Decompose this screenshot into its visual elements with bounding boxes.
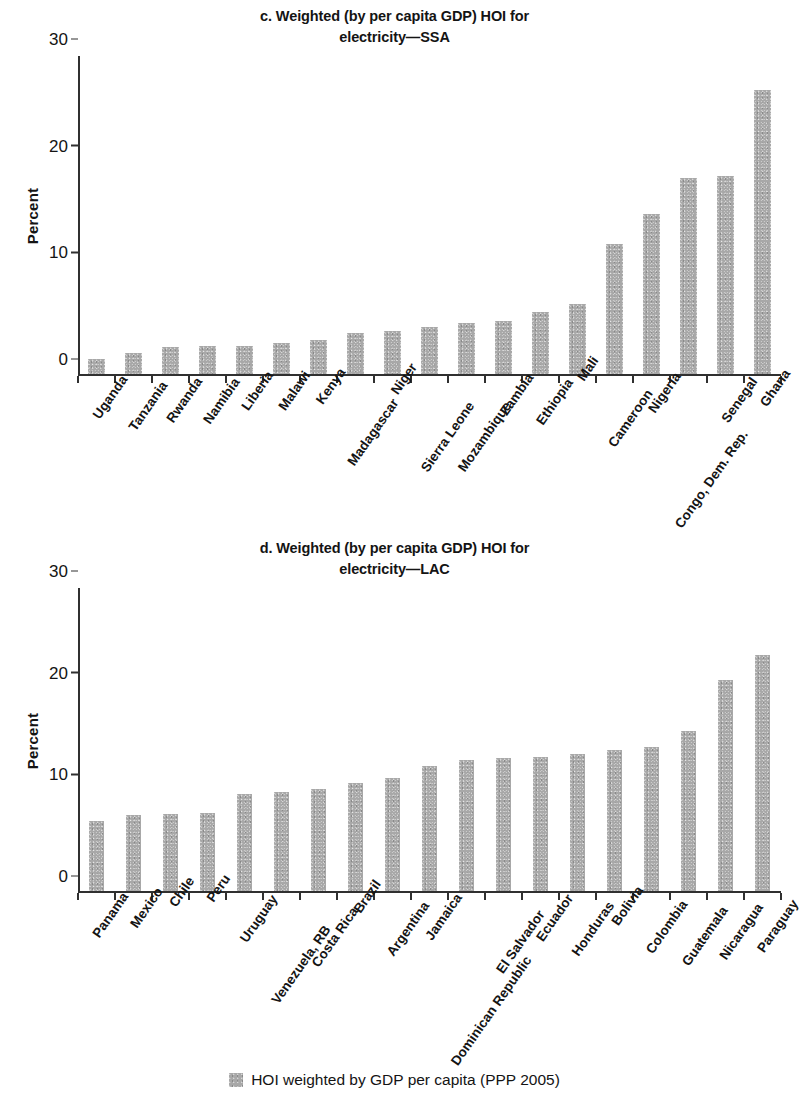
panel-c-title: c. Weighted (by per capita GDP) HOI for … xyxy=(0,0,789,48)
x-label-slot: Mali xyxy=(559,328,596,498)
x-label-slot: Chile xyxy=(152,843,189,1013)
x-label-slot: Costa Rica xyxy=(300,843,337,1013)
x-label-slot: Niger xyxy=(374,328,411,498)
y-tick-label: 20 xyxy=(49,664,68,681)
x-label-slot: Bolivia xyxy=(596,843,633,1013)
x-label-slot: Paraguay xyxy=(744,843,781,1013)
x-label-slot: Ethiopia xyxy=(522,328,559,498)
x-label-slot: Venezuela, RB xyxy=(263,843,300,1013)
panel-c-title-line1: c. Weighted (by per capita GDP) HOI for xyxy=(260,8,529,24)
y-tick: 0 xyxy=(59,351,78,368)
y-tick: 0 xyxy=(59,868,78,885)
x-axis-category-label: Paraguay xyxy=(754,897,801,955)
panel-c-ssa: c. Weighted (by per capita GDP) HOI for … xyxy=(0,0,789,510)
x-label-slot: Uruguay xyxy=(226,843,263,1013)
y-tick: 30 xyxy=(49,31,78,48)
x-label-slot: Rwanda xyxy=(152,328,189,498)
panel-c-x-labels: UgandaTanzaniaRwandaNamibiaLiberiaMalawi… xyxy=(78,328,781,498)
legend-label: HOI weighted by GDP per capita (PPP 2005… xyxy=(251,1071,560,1089)
y-tick-mark xyxy=(71,358,78,360)
x-label-slot: Sierra Leone xyxy=(411,328,448,498)
x-label-slot: Mexico xyxy=(115,843,152,1013)
x-label-slot: Ecuador xyxy=(522,843,559,1013)
y-tick-label: 10 xyxy=(49,766,68,783)
panel-d-title: d. Weighted (by per capita GDP) HOI for … xyxy=(0,530,789,580)
x-label-slot: Dominican Republic xyxy=(448,843,485,1013)
x-label-slot: Ghana xyxy=(744,328,781,498)
y-tick-mark xyxy=(71,38,78,40)
panel-d-x-labels: PanamaMexicoChilePeruUruguayVenezuela, R… xyxy=(78,843,781,1013)
legend-swatch-icon xyxy=(229,1073,243,1087)
y-tick-mark xyxy=(71,672,78,674)
y-tick-label: 30 xyxy=(49,563,68,580)
y-tick-mark xyxy=(71,774,78,776)
x-label-slot: Nigeria xyxy=(633,328,670,498)
x-label-slot: Peru xyxy=(189,843,226,1013)
x-label-slot: Madagascar xyxy=(337,328,374,498)
y-tick-label: 0 xyxy=(59,351,68,368)
x-label-slot: El Salvador xyxy=(485,843,522,1013)
y-tick-label: 10 xyxy=(49,244,68,261)
y-tick-mark xyxy=(71,875,78,877)
y-tick: 10 xyxy=(49,766,78,783)
panel-d-title-line1: d. Weighted (by per capita GDP) HOI for xyxy=(260,540,530,556)
x-label-slot: Cameroon xyxy=(596,328,633,498)
y-tick-mark xyxy=(71,570,78,572)
y-tick-mark xyxy=(71,252,78,254)
y-tick: 10 xyxy=(49,244,78,261)
panel-d-title-line2: electricity—LAC xyxy=(339,561,450,577)
y-tick-label: 20 xyxy=(49,137,68,154)
x-label-slot: Jamaica xyxy=(411,843,448,1013)
y-tick: 20 xyxy=(49,664,78,681)
x-label-slot: Namibia xyxy=(189,328,226,498)
x-label-slot: Uganda xyxy=(78,328,115,498)
x-label-slot: Congo, Dem. Rep. xyxy=(670,328,707,498)
x-label-slot: Panama xyxy=(78,843,115,1013)
y-tick: 30 xyxy=(49,563,78,580)
x-axis-category-label: Ghana xyxy=(756,366,792,409)
panel-d-y-ticks: 0102030 xyxy=(16,588,78,893)
x-label-slot: Colombia xyxy=(633,843,670,1013)
x-label-slot: Mozambique xyxy=(448,328,485,498)
x-label-slot: Honduras xyxy=(559,843,596,1013)
x-label-slot: Nicaragua xyxy=(707,843,744,1013)
chart-legend: HOI weighted by GDP per capita (PPP 2005… xyxy=(0,1071,789,1089)
x-label-slot: Kenya xyxy=(300,328,337,498)
x-label-slot: Zambia xyxy=(485,328,522,498)
x-label-slot: Argentina xyxy=(374,843,411,1013)
y-tick: 20 xyxy=(49,137,78,154)
panel-c-y-ticks: 0102030 xyxy=(16,56,78,376)
panel-c-title-line2: electricity—SSA xyxy=(339,29,450,45)
y-tick-mark xyxy=(71,145,78,147)
x-label-slot: Liberia xyxy=(226,328,263,498)
x-label-slot: Senegal xyxy=(707,328,744,498)
x-label-slot: Tanzania xyxy=(115,328,152,498)
x-label-slot: Guatemala xyxy=(670,843,707,1013)
x-label-slot: Brazil xyxy=(337,843,374,1013)
y-tick-label: 30 xyxy=(49,31,68,48)
panel-d-lac: d. Weighted (by per capita GDP) HOI for … xyxy=(0,530,789,1055)
x-label-slot: Malawi xyxy=(263,328,300,498)
y-tick-label: 0 xyxy=(59,868,68,885)
